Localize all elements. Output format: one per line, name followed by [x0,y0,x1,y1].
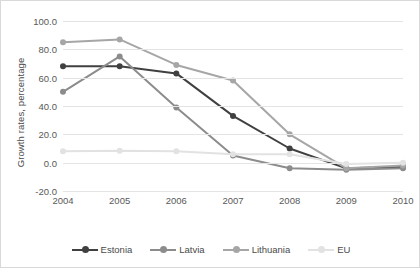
legend-label: EU [337,244,350,255]
legend-label: Estonia [101,244,133,255]
plot-area [63,21,403,191]
legend-item-latvia[interactable]: Latvia [150,244,204,255]
y-tick-label: 0.0 [11,157,57,168]
y-tick-label: 20.0 [11,129,57,140]
data-point-latvia-2005 [117,53,123,59]
x-tick-label: 2010 [392,195,413,206]
legend-item-eu[interactable]: EU [308,244,350,255]
legend-item-lithuania[interactable]: Lithuania [223,244,291,255]
x-axis-tick-labels: 2004200520062007200820092010 [63,195,403,209]
gridline [63,21,403,22]
legend-item-estonia[interactable]: Estonia [72,244,133,255]
x-tick-label: 2007 [222,195,243,206]
chart-container: Growth rates, percentage 100.080.060.040… [0,0,420,268]
y-tick-label: 100.0 [11,16,57,27]
y-tick-label: 60.0 [11,72,57,83]
gridline [63,134,403,135]
x-tick-label: 2008 [279,195,300,206]
gridline [63,49,403,50]
legend-swatch-icon [308,245,334,254]
legend-label: Lithuania [252,244,291,255]
y-tick-label: -20.0 [11,186,57,197]
gridline [63,78,403,79]
data-point-latvia-2008 [287,165,293,171]
x-tick-label: 2006 [166,195,187,206]
x-tick-label: 2009 [336,195,357,206]
data-point-estonia-2006 [173,70,179,76]
data-point-eu-2008 [287,151,293,157]
x-tick-label: 2005 [109,195,130,206]
x-tick-label: 2004 [52,195,73,206]
data-point-estonia-2004 [60,63,66,69]
legend-swatch-icon [223,245,249,254]
data-point-eu-2004 [60,148,66,154]
data-point-estonia-2005 [117,63,123,69]
gridline [63,191,403,192]
legend-swatch-icon [150,245,176,254]
data-point-eu-2006 [173,148,179,154]
gridline [63,163,403,164]
data-point-lithuania-2004 [60,39,66,45]
data-point-estonia-2008 [287,146,293,152]
legend-label: Latvia [179,244,204,255]
gridline [63,106,403,107]
y-axis-tick-labels: 100.080.060.040.020.00.0-20.0 [9,21,57,191]
y-tick-label: 80.0 [11,44,57,55]
data-point-eu-2007 [230,151,236,157]
y-tick-label: 40.0 [11,101,57,112]
chart-legend: EstoniaLatviaLithuaniaEU [1,244,420,255]
series-line-lithuania [63,39,403,168]
legend-swatch-icon [72,245,98,254]
data-point-lithuania-2006 [173,62,179,68]
data-point-latvia-2004 [60,89,66,95]
data-point-estonia-2007 [230,113,236,119]
data-point-lithuania-2005 [117,36,123,42]
data-point-eu-2005 [117,148,123,154]
